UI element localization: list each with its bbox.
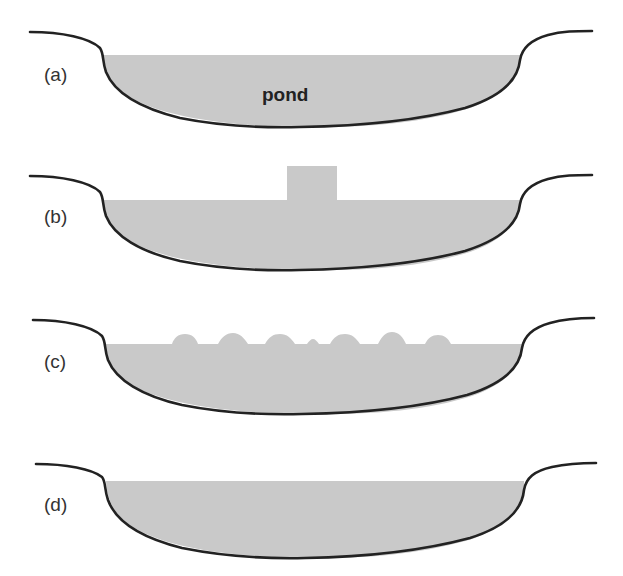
pond-cross-section-c (0, 288, 623, 432)
panel-label-c: (c) (44, 352, 66, 371)
pond-wave-diagram: (a) pond (b) (c) (d) (0, 0, 623, 576)
panel-d: (d) (0, 432, 623, 576)
pond-label: pond (262, 85, 308, 104)
panel-a: (a) pond (0, 0, 623, 144)
water-body (103, 55, 520, 127)
water-body (106, 481, 524, 558)
pond-cross-section-b (0, 144, 623, 288)
panel-label-d: (d) (44, 495, 67, 514)
panel-c: (c) (0, 288, 623, 432)
pond-cross-section-d (0, 432, 623, 576)
pond-cross-section-a (0, 0, 623, 144)
panel-label-b: (b) (44, 207, 67, 226)
water-body (103, 166, 520, 270)
panel-label-a: (a) (44, 65, 67, 84)
panel-b: (b) (0, 144, 623, 288)
